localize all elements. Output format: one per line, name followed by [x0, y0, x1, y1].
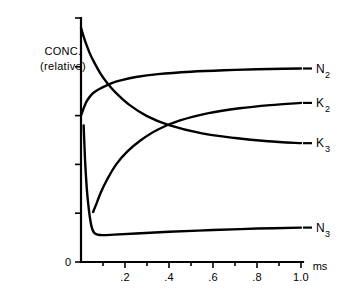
x-tick-label: .2 [120, 271, 130, 283]
x-tick-label: .4 [164, 271, 174, 283]
origin-label: 0 [65, 256, 71, 268]
series-subscript-n2: 2 [325, 70, 330, 80]
x-tick-label: 1.0 [293, 271, 309, 283]
series-subscript-k2: 2 [325, 104, 330, 114]
series-label-k3: K [316, 136, 324, 150]
series-label-n2: N [316, 62, 325, 76]
series-subscript-n3: 3 [325, 229, 330, 239]
plot-background [0, 0, 344, 292]
series-label-n3: N [316, 221, 325, 235]
x-axis-unit-label: ms [313, 260, 328, 272]
series-subscript-k3: 3 [325, 144, 330, 154]
y-axis-title-line1: CONC. [45, 45, 82, 57]
series-label-k2: K [316, 96, 324, 110]
x-tick-label: .8 [252, 271, 262, 283]
x-tick-label: .6 [208, 271, 218, 283]
concentration-time-plot: .2.4.6.81.0 0 ms CONC. (relative) N2K3K2… [0, 0, 344, 292]
y-axis-title-line2: (relative) [40, 60, 86, 72]
chart-figure: .2.4.6.81.0 0 ms CONC. (relative) N2K3K2… [0, 0, 344, 292]
